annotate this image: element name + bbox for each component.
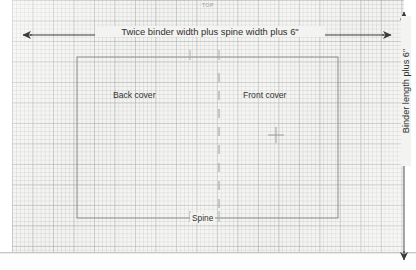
- registration-crosshair-icon: [268, 127, 284, 143]
- cover-outline-rect: [77, 57, 338, 218]
- spine-label: Spine: [190, 213, 215, 223]
- back-cover-label: Back cover: [113, 90, 156, 100]
- scanned-page: TOP Twice binder width plus spine width …: [0, 0, 416, 270]
- front-cover-label: Front cover: [243, 90, 286, 100]
- top-orientation-label: TOP: [183, 2, 233, 8]
- height-dimension-label: Binder length plus 6": [401, 16, 411, 166]
- diagram-artwork: [0, 0, 416, 270]
- width-dimension-label: Twice binder width plus spine width plus…: [95, 26, 325, 37]
